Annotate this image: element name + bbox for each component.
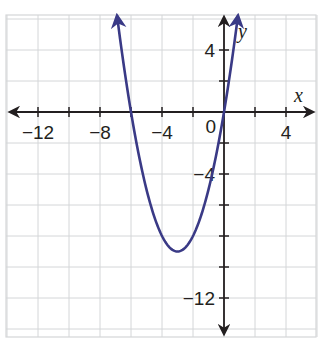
- parabola-curve: [117, 16, 238, 252]
- x-tick-label: 0: [205, 116, 216, 137]
- y-tick-label: 4: [204, 40, 215, 61]
- x-tick-label: −4: [151, 122, 173, 143]
- x-tick-label: −12: [22, 122, 54, 143]
- x-tick-label: 4: [281, 122, 292, 143]
- grid: [6, 15, 317, 337]
- parabola-chart: −12−8−4044−4−12 x y: [0, 0, 320, 346]
- y-axis-label: y: [236, 20, 247, 43]
- x-tick-label: −8: [89, 122, 111, 143]
- x-axis-label: x: [293, 84, 303, 106]
- grid-border: [6, 15, 316, 337]
- y-tick-label: −12: [183, 288, 215, 309]
